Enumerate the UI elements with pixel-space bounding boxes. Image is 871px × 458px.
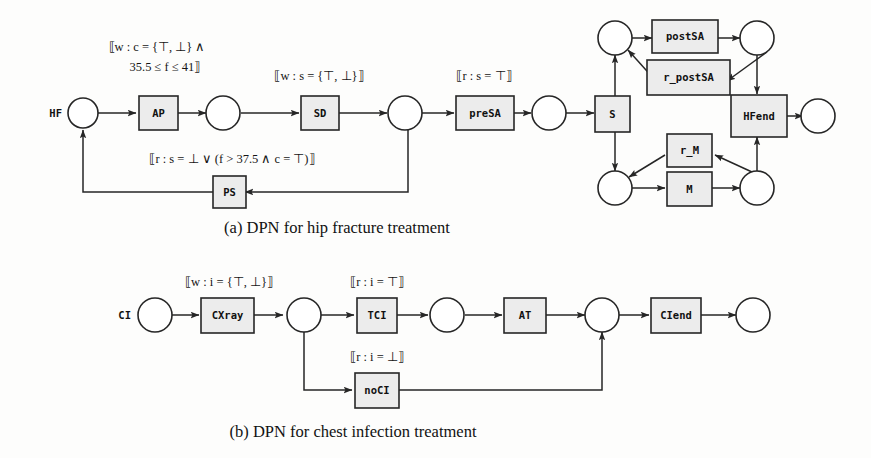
arc-p8-to-rm — [715, 155, 752, 172]
transition-label-m: M — [686, 183, 692, 195]
transition-label-at: AT — [519, 309, 532, 321]
guard-sd-line1: ⟦w : s = {⊤, ⊥}⟧ — [274, 69, 363, 83]
place-label-hf: HF — [49, 107, 62, 119]
place-after-ap — [206, 96, 240, 130]
place-after-cxray — [287, 298, 321, 332]
arc-p7-to-rpostsa — [727, 52, 767, 81]
arc-p2-to-noci — [304, 332, 352, 390]
caption-subfigure-a: (a) DPN for hip fracture treatment — [224, 218, 450, 237]
place-hf-end — [801, 99, 835, 133]
transition-label-presa: preSA — [469, 107, 501, 119]
transition-label-ciend: CIend — [660, 309, 692, 321]
transition-label-cxray: CXray — [212, 309, 244, 321]
dpn-figure-svg: AP SD PS preSA S postSA r_postSA r_M M H… — [0, 0, 871, 458]
guard-noci-line1: ⟦r : i = ⊥⟧ — [350, 350, 404, 364]
guard-ap-line1: ⟦w : c = {⊤, ⊥} ∧ — [109, 40, 206, 54]
guard-ps-line1: ⟦r : s = ⊥ ∨ (f > 37.5 ∧ c = ⊤)⟧ — [149, 152, 314, 166]
transition-label-s: S — [609, 108, 615, 120]
transition-label-postsa: postSA — [666, 30, 705, 42]
subfigure-a: AP SD PS preSA S postSA r_postSA r_M M H… — [49, 20, 835, 237]
place-after-presa — [532, 96, 566, 130]
transition-label-sd: SD — [314, 107, 327, 119]
place-ci-start — [138, 298, 172, 332]
guard-presa-line1: ⟦r : s = ⊤⟧ — [456, 69, 511, 83]
caption-subfigure-b: (b) DPN for chest infection treatment — [230, 422, 477, 441]
place-postsa-out — [740, 21, 774, 55]
transition-label-ap: AP — [152, 107, 165, 119]
transition-label-r-m: r_M — [680, 144, 699, 157]
guard-tci-line1: ⟦r : i = ⊤⟧ — [350, 275, 404, 289]
place-label-ci: CI — [118, 309, 131, 321]
transition-label-ps: PS — [223, 186, 236, 198]
arc-rm-to-p6 — [629, 155, 665, 177]
place-after-tci — [430, 298, 464, 332]
place-after-sd — [388, 96, 422, 130]
place-ci-end — [736, 298, 770, 332]
transition-label-tci: TCI — [368, 309, 387, 321]
place-sa-upper — [598, 21, 632, 55]
guard-ap-line2: 35.5 ≤ f ≤ 41⟧ — [130, 60, 201, 74]
transition-label-hfend: HFend — [743, 110, 775, 122]
place-m-out — [740, 171, 774, 205]
figure-canvas: AP SD PS preSA S postSA r_postSA r_M M H… — [0, 0, 871, 458]
subfigure-b: CXray TCI AT noCI CIend CI ⟦w : i = {⊤, … — [118, 275, 770, 441]
arc-noci-to-p4 — [399, 332, 602, 390]
place-after-at — [585, 298, 619, 332]
guard-cxray-line1: ⟦w : i = {⊤, ⊥}⟧ — [185, 275, 273, 289]
place-m-in — [598, 171, 632, 205]
place-hf-start — [68, 98, 98, 128]
transition-label-noci: noCI — [364, 384, 389, 396]
transition-label-r-postsa: r_postSA — [663, 71, 714, 84]
